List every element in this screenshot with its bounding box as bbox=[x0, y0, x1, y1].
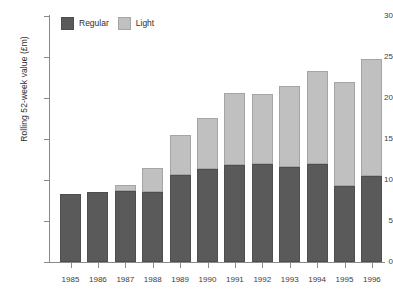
y-tick bbox=[44, 180, 49, 181]
bar-segment-regular bbox=[361, 176, 382, 262]
bar-segment-regular bbox=[252, 164, 273, 262]
bar-segment-regular bbox=[87, 192, 108, 262]
bar-segment-light bbox=[252, 94, 273, 165]
bar-segment-light bbox=[361, 59, 382, 176]
bar-segment-light bbox=[307, 71, 328, 164]
bar-segment-light bbox=[334, 82, 355, 186]
y-tick bbox=[44, 139, 49, 140]
legend-swatch-light-icon bbox=[118, 17, 131, 30]
y-tick bbox=[44, 221, 49, 222]
legend-label-regular: Regular bbox=[79, 19, 109, 28]
x-tick bbox=[180, 263, 181, 268]
y-tick bbox=[44, 16, 49, 17]
bar-segment-regular bbox=[115, 191, 136, 262]
y-axis-title: Rolling 52-week value (£m) bbox=[19, 9, 29, 169]
x-tick bbox=[290, 263, 291, 268]
x-tick bbox=[235, 263, 236, 268]
bar-segment-regular bbox=[197, 169, 218, 262]
bar-segment-regular bbox=[170, 175, 191, 262]
x-tick bbox=[153, 263, 154, 268]
plot-area bbox=[50, 16, 385, 262]
legend-swatch-regular-icon bbox=[61, 17, 74, 30]
x-tick bbox=[71, 263, 72, 268]
x-axis-line bbox=[49, 262, 385, 263]
chart-legend: Regular Light bbox=[61, 17, 154, 30]
bar-segment-regular bbox=[60, 194, 81, 262]
legend-item-light: Light bbox=[118, 17, 154, 30]
x-tick bbox=[98, 263, 99, 268]
y-tick bbox=[44, 98, 49, 99]
bar-chart: Rolling 52-week value (£m) 051015202530 … bbox=[0, 0, 393, 297]
y-tick bbox=[44, 262, 49, 263]
x-tick bbox=[372, 263, 373, 268]
legend-label-light: Light bbox=[136, 19, 154, 28]
y-tick bbox=[44, 57, 49, 58]
bar-segment-regular bbox=[279, 167, 300, 262]
x-tick bbox=[345, 263, 346, 268]
x-tick bbox=[262, 263, 263, 268]
bar-segment-light bbox=[170, 135, 191, 175]
bar-segment-light bbox=[279, 86, 300, 167]
bar-segment-regular bbox=[224, 165, 245, 262]
bar-segment-light bbox=[115, 185, 136, 191]
bar-segment-regular bbox=[307, 164, 328, 262]
bar-segment-light bbox=[224, 93, 245, 165]
x-tick bbox=[125, 263, 126, 268]
bar-segment-regular bbox=[142, 192, 163, 262]
x-tick bbox=[208, 263, 209, 268]
bar-segment-light bbox=[142, 168, 163, 193]
bar-segment-light bbox=[197, 118, 218, 170]
bar-segment-regular bbox=[334, 186, 355, 262]
legend-item-regular: Regular bbox=[61, 17, 109, 30]
x-tick bbox=[317, 263, 318, 268]
x-tick-label: 1996 bbox=[352, 276, 392, 284]
